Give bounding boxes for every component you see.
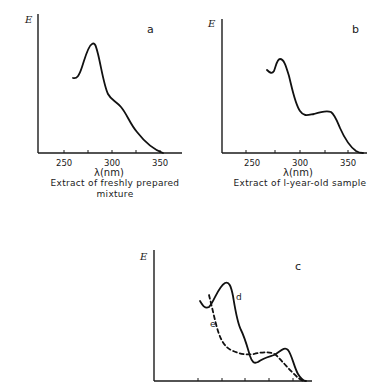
panel-b-y-axis-label: E <box>208 18 215 29</box>
panel-a-x-axis-label: λ(nm) <box>94 167 124 178</box>
panel-a-y-axis-label: E <box>25 14 32 25</box>
panel-c-curve-e-label: e <box>210 319 216 329</box>
panel-c-letter: c <box>295 260 301 273</box>
panel-c-axes <box>154 250 312 381</box>
panel-b-curve <box>267 59 363 153</box>
panel-a-caption-line1: Extract of freshly prepared <box>40 178 190 188</box>
panel-a-curve <box>73 43 163 153</box>
panel-c-y-axis-label: E <box>140 251 147 262</box>
panel-b-x-axis-label: λ(nm) <box>283 167 313 178</box>
panel-b-letter: b <box>352 23 359 36</box>
panel-c-curve-e <box>209 295 304 381</box>
panel-c-curve-d <box>200 283 306 381</box>
panel-b-axes <box>222 19 367 153</box>
panel-a-letter: a <box>147 23 154 36</box>
panel-b-caption: Extract of l-year-old sample <box>220 178 380 188</box>
panel-a-tick-350: 350 <box>152 159 168 168</box>
panel-b-tick-250: 250 <box>244 159 260 168</box>
panel-a-axes <box>38 14 182 153</box>
panel-b-tick-350: 350 <box>340 159 356 168</box>
panel-a-tick-250: 250 <box>56 159 72 168</box>
panel-a-caption-line2: mixture <box>40 189 190 199</box>
panel-c-curve-d-label: d <box>236 292 242 302</box>
